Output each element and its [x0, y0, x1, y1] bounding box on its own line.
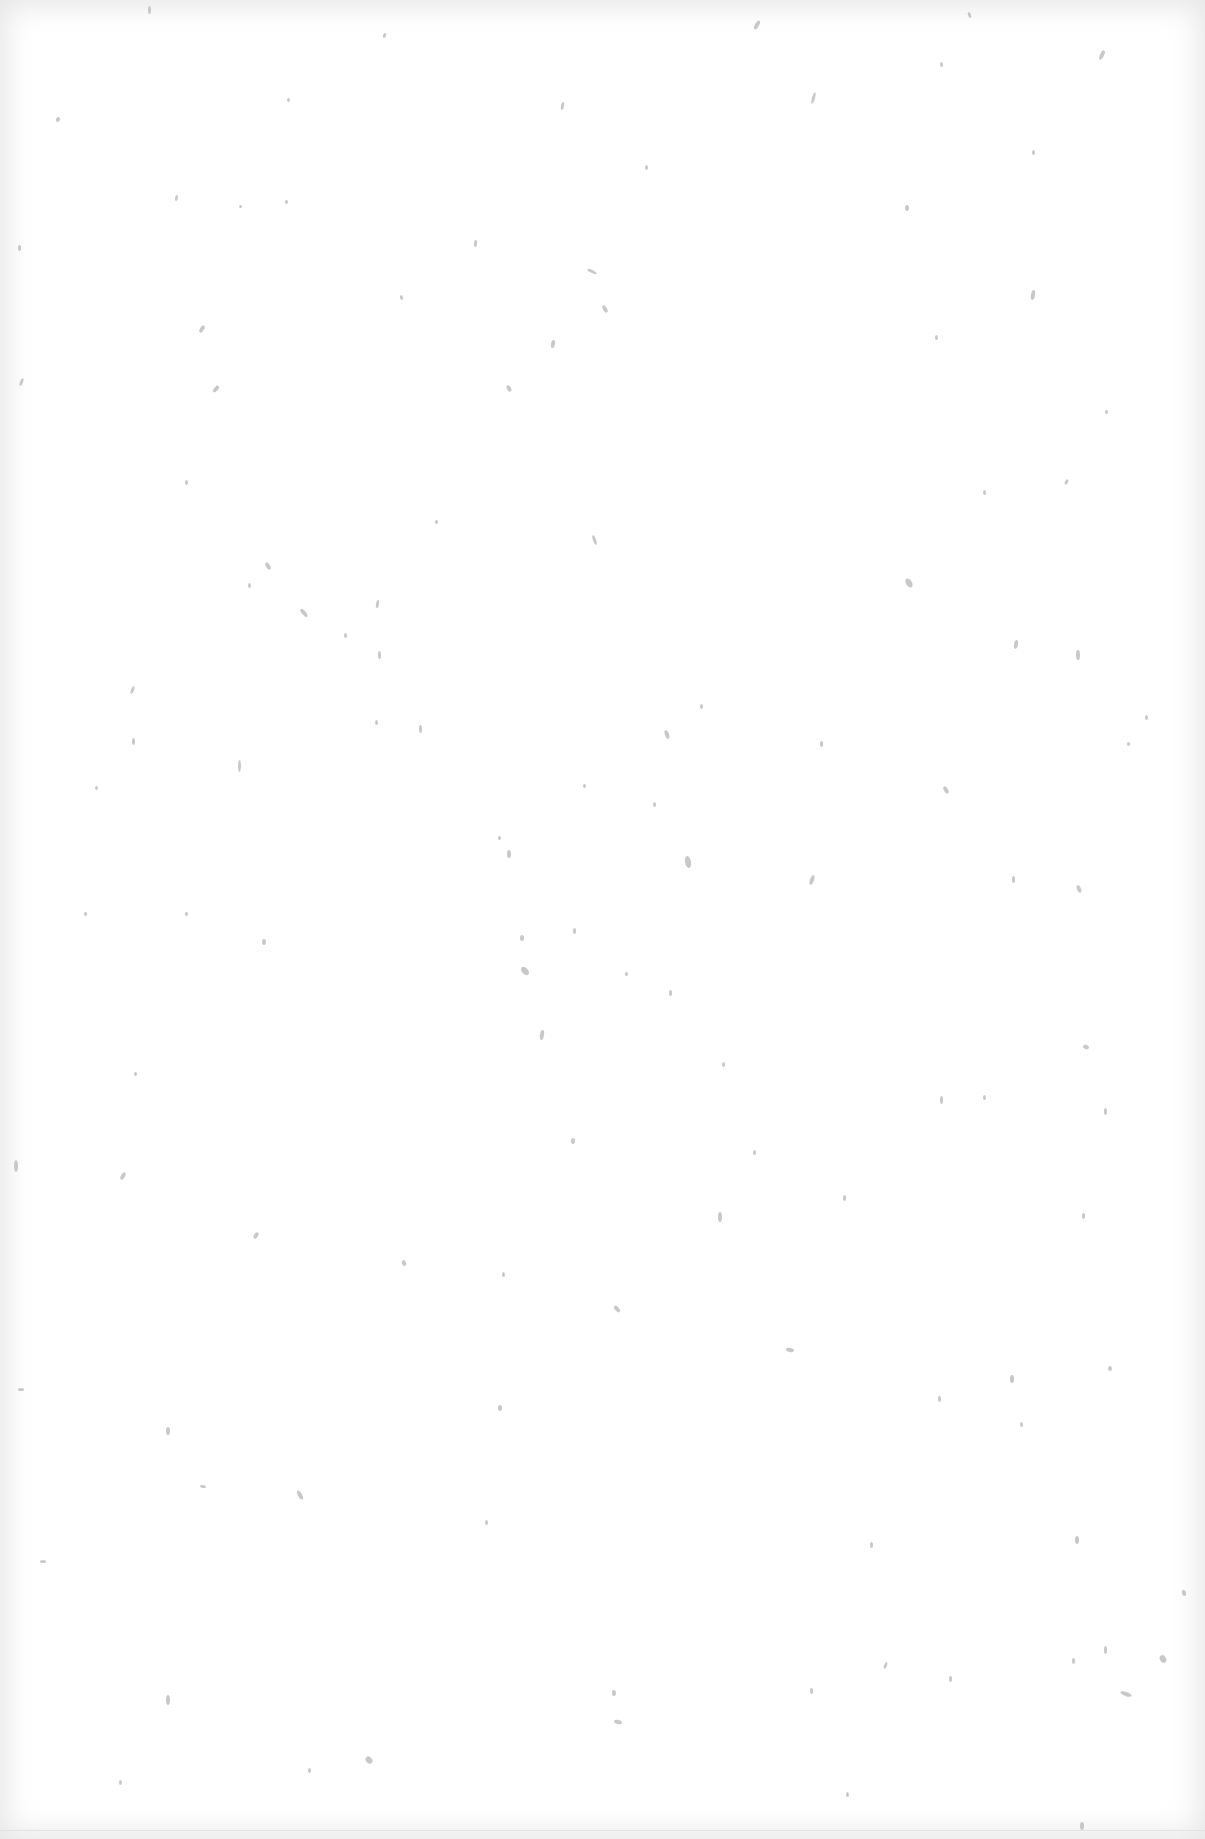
dust-speck [846, 1792, 849, 1797]
dust-speck [198, 325, 205, 334]
dust-speck [435, 520, 438, 524]
dust-speck [1082, 1213, 1085, 1219]
dust-speck [166, 1695, 170, 1705]
dust-speck [18, 245, 21, 251]
dust-speck [1120, 1690, 1133, 1698]
dust-speck [591, 535, 597, 545]
dust-speck [560, 102, 564, 110]
dust-speck [1030, 290, 1036, 301]
dust-speck [14, 1160, 18, 1172]
dust-speck [382, 33, 387, 39]
dust-speck [502, 1272, 505, 1277]
dust-speck [185, 912, 188, 916]
dust-speck [200, 1485, 206, 1489]
dust-speck [810, 92, 816, 104]
dust-speck [1080, 1822, 1084, 1830]
dust-speck [669, 990, 672, 996]
dust-speck [519, 965, 530, 977]
dust-speck [700, 704, 703, 709]
dust-speck [1145, 715, 1148, 720]
dust-speck [753, 20, 761, 31]
dust-speck [983, 1095, 986, 1100]
dust-speck [940, 62, 943, 67]
dust-speck [1098, 50, 1106, 61]
dust-speck [539, 1030, 545, 1041]
dust-speck [718, 1212, 722, 1222]
dust-speck [983, 490, 986, 495]
dust-speck [308, 1768, 311, 1773]
dust-speck [1032, 150, 1035, 155]
dust-speck [1108, 1366, 1112, 1371]
dust-speck [1082, 1044, 1089, 1050]
dust-speck [664, 730, 671, 740]
dust-speck [1010, 1375, 1014, 1383]
dust-speck [419, 725, 422, 733]
dust-speck [238, 760, 241, 772]
dust-speck [1076, 650, 1080, 660]
dust-speck [55, 116, 61, 122]
dust-speck [344, 633, 347, 638]
dust-speck [134, 1072, 137, 1076]
page-edge-shading [0, 0, 1205, 1839]
dust-speck [614, 1719, 623, 1725]
dust-speck [938, 1396, 941, 1402]
dust-speck [645, 165, 648, 170]
dust-speck [612, 1690, 616, 1696]
dust-speck [883, 1662, 888, 1670]
dust-speck [550, 340, 555, 349]
blank-scanned-page [0, 0, 1205, 1839]
dust-speck [498, 836, 501, 840]
dust-speck [843, 1195, 846, 1201]
dust-speck [940, 1096, 943, 1104]
dust-speck [474, 240, 478, 247]
dust-speck [753, 1150, 756, 1155]
dust-speck [130, 686, 136, 695]
dust-speck [507, 850, 511, 858]
dust-speck [949, 1676, 952, 1682]
dust-speck [375, 600, 379, 608]
dust-speck [375, 720, 378, 725]
dust-speck [583, 784, 586, 788]
dust-speck [935, 335, 938, 340]
dust-speck [625, 972, 628, 976]
dust-speck [571, 1138, 575, 1144]
dust-speck [119, 1172, 126, 1181]
dust-speck [587, 268, 597, 275]
dust-speck [820, 741, 823, 747]
dust-speck [1104, 1108, 1107, 1115]
dust-speck [498, 1405, 502, 1411]
dust-speck [1158, 1654, 1167, 1664]
dust-speck [18, 1388, 24, 1391]
dust-speck [684, 856, 692, 869]
dust-speck [1072, 1658, 1075, 1664]
dust-speck [722, 1062, 725, 1067]
page-bottom-edge [0, 1830, 1205, 1831]
dust-speck [573, 928, 576, 934]
dust-speck [1075, 1536, 1079, 1544]
dust-speck [148, 6, 151, 14]
dust-speck [1105, 410, 1108, 414]
dust-speck [810, 1688, 813, 1694]
dust-speck [401, 1259, 407, 1266]
dust-speck [239, 205, 242, 208]
dust-speck [653, 802, 656, 807]
dust-speck [253, 1231, 260, 1239]
dust-speck [1020, 1422, 1023, 1427]
dust-speck [166, 1427, 170, 1435]
dust-speck [1013, 640, 1019, 650]
dust-speck [378, 651, 381, 659]
dust-speck [942, 786, 949, 795]
dust-speck [248, 583, 251, 588]
dust-speck [84, 912, 87, 916]
dust-speck [40, 1560, 46, 1563]
dust-speck [95, 786, 98, 790]
dust-speck [506, 384, 513, 392]
dust-speck [399, 295, 404, 301]
dust-speck [262, 939, 266, 945]
dust-speck [296, 1490, 304, 1501]
dust-speck [299, 608, 308, 618]
dust-speck [175, 195, 179, 201]
dust-speck [808, 875, 815, 886]
dust-speck [601, 305, 608, 314]
dust-speck [1064, 479, 1070, 486]
